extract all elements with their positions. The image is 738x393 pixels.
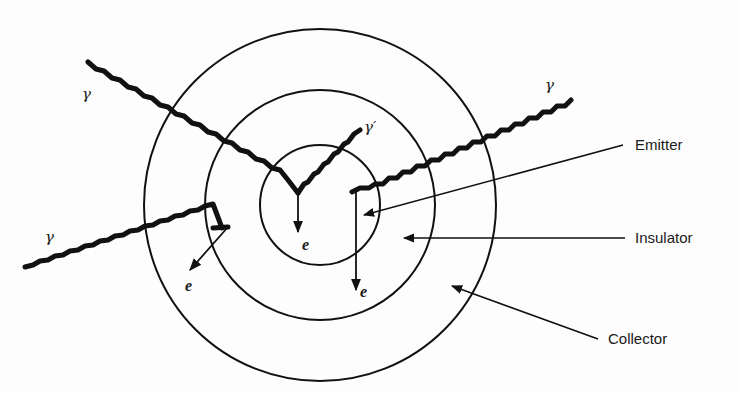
collector-leader-line: [452, 286, 598, 339]
emitter-leader-line: [364, 145, 623, 215]
electron-label-emitter: e: [360, 283, 367, 300]
insulator-label: Insulator: [635, 229, 693, 246]
emitter-ring: [260, 145, 380, 265]
collector-ring: [144, 29, 496, 381]
gamma-prime-label: γ′: [364, 118, 377, 136]
detector-diagram: γ γ γ′ γ e e e Emitter Insulator Collect…: [0, 0, 738, 393]
gamma-label-lower-left: γ: [45, 228, 54, 246]
emitter-label: Emitter: [635, 136, 683, 153]
gamma-ray-incoming-right: [352, 100, 571, 192]
gamma-ray-incoming-upper-left: [88, 62, 298, 193]
gamma-label-upper-left: γ: [82, 85, 91, 103]
electron-label-center: e: [302, 236, 309, 253]
gamma-ray-incoming-lower-left: [25, 204, 222, 267]
gamma-prime-ray: [298, 130, 360, 193]
collector-label: Collector: [608, 330, 667, 347]
electron-label-lower-left: e: [185, 277, 192, 294]
diagram-canvas: γ γ γ′ γ e e e Emitter Insulator Collect…: [0, 0, 738, 393]
gamma-label-upper-right: γ: [545, 76, 554, 94]
